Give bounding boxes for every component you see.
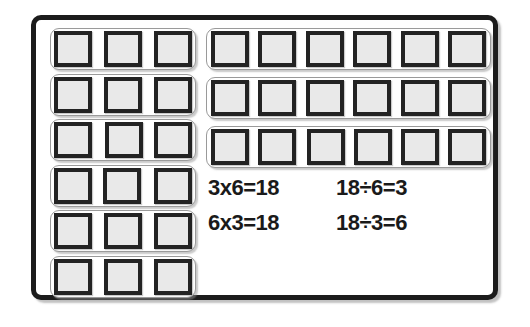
unit-square[interactable] xyxy=(154,77,192,113)
unit-square[interactable] xyxy=(54,168,92,204)
unit-square[interactable] xyxy=(211,80,249,116)
left-group-1[interactable] xyxy=(50,28,196,70)
unit-square[interactable] xyxy=(104,259,142,295)
unit-square[interactable] xyxy=(103,168,141,204)
equation-row-1: 3x6=18 18÷6=3 xyxy=(208,175,498,201)
worksheet-canvas: 3x6=18 18÷6=3 6x3=18 18÷3=6 xyxy=(0,0,530,327)
unit-square[interactable] xyxy=(306,80,344,116)
right-group-3[interactable] xyxy=(206,126,491,168)
unit-square[interactable] xyxy=(105,122,143,158)
unit-square[interactable] xyxy=(211,31,249,67)
unit-square[interactable] xyxy=(448,80,486,116)
unit-square[interactable] xyxy=(258,80,296,116)
unit-square[interactable] xyxy=(448,31,486,67)
unit-square[interactable] xyxy=(401,129,439,165)
unit-square[interactable] xyxy=(154,122,192,158)
unit-square[interactable] xyxy=(401,31,439,67)
division-equation-2: 18÷3=6 xyxy=(336,210,486,236)
unit-square[interactable] xyxy=(306,31,344,67)
division-equation-1: 18÷6=3 xyxy=(336,175,486,201)
unit-square[interactable] xyxy=(104,213,142,249)
unit-square[interactable] xyxy=(211,129,249,165)
unit-square[interactable] xyxy=(154,213,192,249)
left-group-4[interactable] xyxy=(50,165,196,207)
unit-square[interactable] xyxy=(307,129,345,165)
left-group-6[interactable] xyxy=(50,256,196,298)
left-group-5[interactable] xyxy=(50,210,196,252)
multiplication-equation-2: 6x3=18 xyxy=(208,210,336,236)
unit-square[interactable] xyxy=(353,31,391,67)
unit-square[interactable] xyxy=(154,31,192,67)
unit-square[interactable] xyxy=(354,129,392,165)
unit-square[interactable] xyxy=(258,31,296,67)
unit-square[interactable] xyxy=(54,31,92,67)
worksheet-frame: 3x6=18 18÷6=3 6x3=18 18÷3=6 xyxy=(31,15,498,300)
unit-square[interactable] xyxy=(154,259,192,295)
left-groups-column xyxy=(50,28,196,298)
unit-square[interactable] xyxy=(54,122,92,158)
unit-square[interactable] xyxy=(104,77,142,113)
right-group-1[interactable] xyxy=(206,28,491,70)
equation-block: 3x6=18 18÷6=3 6x3=18 18÷3=6 xyxy=(208,175,498,245)
right-groups-column xyxy=(206,28,491,168)
unit-square[interactable] xyxy=(104,31,142,67)
unit-square[interactable] xyxy=(353,80,391,116)
unit-square[interactable] xyxy=(54,213,92,249)
unit-square[interactable] xyxy=(448,129,486,165)
left-group-3[interactable] xyxy=(50,119,196,161)
left-group-2[interactable] xyxy=(50,74,196,116)
right-group-2[interactable] xyxy=(206,77,491,119)
unit-square[interactable] xyxy=(258,129,296,165)
unit-square[interactable] xyxy=(54,259,92,295)
unit-square[interactable] xyxy=(401,80,439,116)
unit-square[interactable] xyxy=(54,77,92,113)
equation-row-2: 6x3=18 18÷3=6 xyxy=(208,210,498,236)
multiplication-equation-1: 3x6=18 xyxy=(208,175,336,201)
unit-square[interactable] xyxy=(154,168,192,204)
